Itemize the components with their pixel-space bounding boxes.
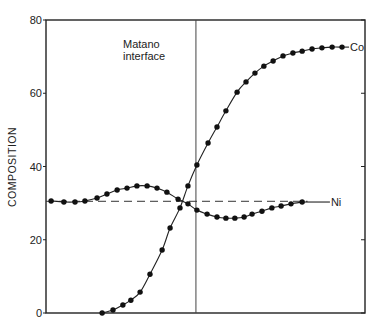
data-point-co [137,289,142,294]
data-point-ni [269,205,274,210]
data-point-ni [249,211,254,216]
plot-frame [46,20,365,313]
data-point-co [120,302,125,307]
y-tick-label: 0 [36,307,42,319]
data-point-co [159,247,164,252]
matano-label-line2: interface [123,50,165,62]
data-point-ni [61,199,66,204]
data-point-ni [185,201,190,206]
data-point-co [329,44,334,49]
data-point-ni [204,211,209,216]
labels-group: COMPOSITION Matano interface Co Ni [6,38,364,208]
curves-group [51,47,349,313]
data-point-ni [82,198,87,203]
series-label-ni: Ni [331,196,341,208]
points-group [48,44,344,315]
data-point-ni [241,214,246,219]
data-point-co [194,162,199,167]
data-point-co [319,45,324,50]
data-point-ni [288,201,293,206]
data-point-ni [259,208,264,213]
series-label-co: Co [350,41,364,53]
data-point-co [309,46,314,51]
data-point-ni [144,183,149,188]
data-point-co [110,307,115,312]
data-point-co [177,205,182,210]
data-point-ni [104,191,109,196]
data-point-ni [164,189,169,194]
series-line-ni [51,186,302,219]
data-point-co [205,140,210,145]
data-point-ni [232,215,237,220]
axes-group [46,20,365,313]
data-point-ni [72,199,77,204]
data-point-co [270,58,275,63]
y-tick-label: 20 [30,234,42,246]
data-point-co [185,183,190,188]
series-line-co [102,47,342,313]
data-point-ni [223,215,228,220]
y-tick-label: 80 [30,14,42,26]
data-point-co [339,44,344,49]
composition-chart: 020406080 COMPOSITION Matano interface C… [0,0,379,330]
data-point-co [261,63,266,68]
y-tick-label: 60 [30,87,42,99]
data-point-co [243,79,248,84]
data-point-co [280,53,285,58]
y-tick-label: 40 [30,161,42,173]
data-point-ni [214,214,219,219]
y-axis-label: COMPOSITION [6,127,18,207]
data-point-ni [175,196,180,201]
data-point-co [147,271,152,276]
data-point-ni [299,199,304,204]
data-point-co [223,108,228,113]
data-point-co [234,89,239,94]
data-point-ni [94,195,99,200]
data-point-ni [194,207,199,212]
data-point-co [214,124,219,129]
matano-label-line1: Matano [123,38,160,50]
data-point-ni [124,185,129,190]
data-point-ni [48,198,53,203]
data-point-ni [114,187,119,192]
data-point-co [252,70,257,75]
data-point-co [299,48,304,53]
data-point-ni [134,183,139,188]
data-point-ni [154,185,159,190]
data-point-co [99,310,104,315]
data-point-ni [278,203,283,208]
data-point-co [128,297,133,302]
data-point-co [290,50,295,55]
data-point-co [167,225,172,230]
